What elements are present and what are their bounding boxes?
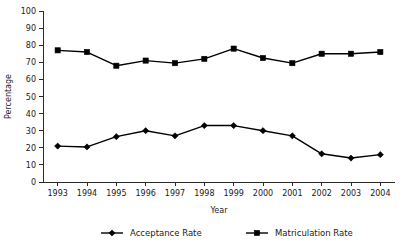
data-point-marker-square [290,61,295,66]
data-point-marker-square [378,49,383,54]
series-line [58,126,381,158]
data-point-marker-square [254,230,259,235]
x-tick-label: 1999 [223,189,243,198]
data-point-marker-square [348,51,353,56]
y-tick-label: 30 [26,127,36,136]
data-point-marker-square [172,61,177,66]
data-point-marker-diamond [201,122,207,128]
series-matriculation-rate [55,46,383,68]
data-point-marker-square [231,46,236,51]
x-tick-label: 2003 [341,189,361,198]
x-axis-ticks: 1993199419951996199719981999200020012002… [47,182,390,198]
y-axis-ticks: 1009080706050403020100 [21,7,43,187]
data-point-marker-diamond [84,144,90,150]
chart-legend: Acceptance RateMatriculation Rate [101,228,353,238]
x-tick-label: 2004 [370,189,390,198]
chart-container: 1009080706050403020100 Percentage 199319… [0,0,403,246]
data-point-marker-diamond [172,133,178,139]
data-point-marker-square [84,49,89,54]
data-point-marker-square [55,48,60,53]
legend-item-matriculation-rate[interactable]: Matriculation Rate [246,228,353,238]
x-tick-label: 1997 [165,189,185,198]
data-point-marker-diamond [109,230,115,236]
y-tick-label: 0 [31,178,36,187]
y-tick-label: 20 [26,144,36,153]
data-point-marker-diamond [319,151,325,157]
data-point-marker-square [319,51,324,56]
y-tick-label: 40 [26,110,36,119]
x-tick-label: 1993 [47,189,67,198]
series-group [55,46,384,161]
y-tick-label: 100 [21,7,36,16]
data-point-marker-diamond [55,143,61,149]
data-point-marker-square [202,56,207,61]
x-tick-label: 2000 [253,189,273,198]
data-point-marker-diamond [377,152,383,158]
x-tick-label: 2002 [311,189,331,198]
series-line [58,49,381,66]
data-point-marker-diamond [143,128,149,134]
y-tick-label: 50 [26,93,36,102]
data-point-marker-diamond [289,133,295,139]
data-point-marker-square [143,58,148,63]
x-tick-label: 2001 [282,189,302,198]
data-point-marker-diamond [348,155,354,161]
y-axis-title: Percentage [4,74,13,119]
x-axis-title: Year [210,206,229,215]
y-tick-label: 60 [26,75,36,84]
legend-item-acceptance-rate[interactable]: Acceptance Rate [101,228,202,238]
data-point-marker-diamond [113,134,119,140]
data-point-marker-diamond [231,122,237,128]
y-tick-label: 90 [26,24,36,33]
y-tick-label: 70 [26,58,36,67]
x-tick-label: 1998 [194,189,214,198]
data-point-marker-square [260,55,265,60]
y-tick-label: 80 [26,41,36,50]
legend-label: Acceptance Rate [130,228,202,238]
line-chart: 1009080706050403020100 Percentage 199319… [0,0,403,246]
x-tick-label: 1994 [77,189,97,198]
x-tick-label: 1995 [106,189,126,198]
series-acceptance-rate [55,122,384,161]
x-axis-group: 1993199419951996199719981999200020012002… [43,182,395,215]
y-tick-label: 10 [26,161,36,170]
legend-label: Matriculation Rate [275,228,353,238]
data-point-marker-square [114,63,119,68]
x-tick-label: 1996 [135,189,155,198]
y-axis-group: 1009080706050403020100 Percentage [4,7,43,187]
data-point-marker-diamond [260,128,266,134]
